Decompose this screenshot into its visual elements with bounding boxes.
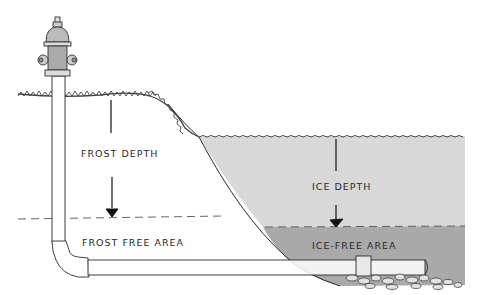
riser-pipe	[52, 76, 65, 242]
grass-ground-line	[18, 91, 199, 137]
frost-line-dashed	[18, 216, 225, 219]
frost-free-area-label: FROST FREE AREA	[82, 237, 184, 248]
fire-hydrant-icon	[38, 17, 77, 76]
frost-ice-depth-diagram	[0, 0, 480, 295]
pipe-coupling	[356, 256, 371, 276]
ice-depth-label: ICE DEPTH	[312, 181, 371, 192]
ice-free-area-label: ICE-FREE AREA	[312, 240, 397, 251]
frost-depth-label: FROST DEPTH	[81, 148, 158, 159]
horizontal-pipe	[88, 260, 425, 275]
